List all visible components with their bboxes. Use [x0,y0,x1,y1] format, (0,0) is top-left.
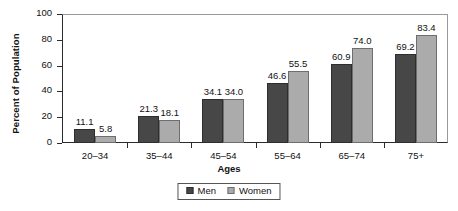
x-category-label: 20–34 [82,150,108,161]
bar-women [159,120,180,143]
y-tick-mark [57,143,62,144]
bar-women [416,35,437,143]
bar-group: 60.974.0 [320,14,384,143]
x-category-label: 75+ [408,150,424,161]
x-tick-mark [384,143,385,148]
legend-item-men[interactable]: Men [186,186,215,196]
x-tick-mark [256,143,257,148]
x-category-label: 65–74 [339,150,365,161]
bar-women [223,99,244,143]
x-category-label: 45–54 [210,150,236,161]
men-color-swatch [186,187,193,194]
bar-value-label: 46.6 [268,70,287,81]
y-tick-label: 80 [41,33,52,44]
legend-label: Men [197,186,215,196]
bar-value-label: 5.8 [99,123,112,134]
x-category-label: 55–64 [274,150,300,161]
x-axis-title: Ages [0,163,458,174]
bar-value-label: 34.1 [204,86,223,97]
y-tick-label: 20 [41,110,52,121]
x-tick-mark [320,143,321,148]
y-axis-title: Percent of Population [10,14,21,154]
women-color-swatch [228,187,235,194]
bar-group: 69.283.4 [384,14,448,143]
bar-value-label: 34.0 [225,86,244,97]
y-tick-label: 60 [41,59,52,70]
x-category-label: 35–44 [146,150,172,161]
bar-women [352,48,373,143]
bar-men [267,83,288,143]
y-tick-mark [57,91,62,92]
y-tick-mark [57,66,62,67]
bar-value-label: 18.1 [160,107,179,118]
bar-group: 21.318.1 [127,14,191,143]
y-tick-mark [57,117,62,118]
bar-value-label: 55.5 [289,58,308,69]
legend-item-women[interactable]: Women [228,186,272,196]
bar-pair: 11.15.8 [63,14,127,143]
y-tick-mark [57,40,62,41]
bar-chart-figure: Percent of Population 020406080100 11.15… [0,0,458,211]
bar-women [95,136,116,143]
bar-group: 34.134.0 [191,14,255,143]
bar-women [288,71,309,143]
x-tick-mark [191,143,192,148]
bar-pair: 60.974.0 [320,14,384,143]
bar-men [331,64,352,143]
bar-value-label: 83.4 [417,22,436,33]
bar-men [202,99,223,143]
bar-men [74,129,95,143]
chart-legend: MenWomen [177,183,280,200]
bar-groups: 11.15.821.318.134.134.046.655.560.974.06… [63,14,448,143]
y-tick-label: 0 [47,136,52,147]
y-tick-label: 100 [36,7,52,18]
bar-men [395,54,416,143]
y-tick-label: 40 [41,84,52,95]
bar-pair: 69.283.4 [384,14,448,143]
bar-pair: 21.318.1 [127,14,191,143]
bar-value-label: 21.3 [139,103,158,114]
bar-men [138,116,159,143]
x-tick-mark [127,143,128,148]
bar-value-label: 69.2 [396,41,415,52]
bar-value-label: 74.0 [353,35,372,46]
bar-value-label: 60.9 [332,51,351,62]
bar-group: 46.655.5 [256,14,320,143]
bar-pair: 34.134.0 [191,14,255,143]
y-tick-mark [57,14,62,15]
bar-group: 11.15.8 [63,14,127,143]
bar-value-label: 11.1 [76,116,94,127]
legend-label: Women [239,186,272,196]
bar-pair: 46.655.5 [256,14,320,143]
